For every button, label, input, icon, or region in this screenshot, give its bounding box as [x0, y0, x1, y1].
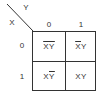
cell-x1-y1-y: Y — [81, 72, 87, 81]
cell-x0-y0-y: Y — [49, 42, 55, 51]
cell-x1-y0-y: Y — [49, 72, 55, 81]
kmap-grid: XY XY XY XY — [32, 31, 96, 91]
cell-x0-y1-y: Y — [81, 42, 87, 51]
col-header-0: 0 — [44, 21, 54, 29]
col-header-1: 1 — [76, 21, 86, 29]
cell-x1-y1: XY — [65, 62, 97, 91]
row-variable-label: X — [8, 19, 16, 27]
cell-x0-y1: XY — [65, 32, 97, 61]
row-header-0: 0 — [17, 42, 27, 50]
cell-x1-y0: XY — [33, 62, 65, 91]
cell-x0-y0: XY — [33, 32, 65, 61]
col-variable-label: Y — [22, 4, 30, 12]
row-header-1: 1 — [17, 73, 27, 81]
